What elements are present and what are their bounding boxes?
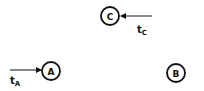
node-a: A [42,62,60,80]
diagram-canvas: tC tA C A B [0,0,204,91]
node-label-b: B [173,69,180,79]
node-c: C [101,7,119,25]
input-label-ta: tA [10,75,21,88]
node-label-a: A [48,67,55,77]
input-label-tc: tC [137,24,147,37]
input-arrow-c: tC [121,16,152,37]
input-arrow-a: tA [10,70,41,88]
node-b: B [167,64,185,82]
node-label-c: C [107,12,114,22]
